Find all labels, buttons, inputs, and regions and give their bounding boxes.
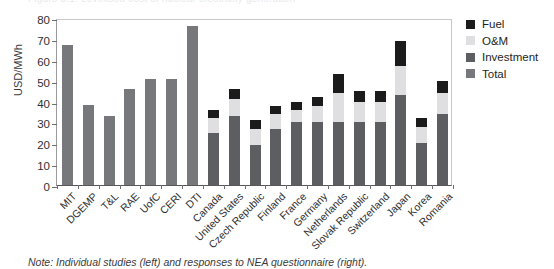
y-axis-label: USD/MWh <box>12 15 24 125</box>
bar-segment-om <box>395 66 406 95</box>
y-axis-tick <box>52 124 57 125</box>
bar-segment-om <box>250 129 261 146</box>
x-axis-tick <box>286 185 287 189</box>
bar-segment-fuel <box>208 110 219 118</box>
legend-swatch-fuel <box>466 20 475 29</box>
bar-segment-om <box>354 102 365 123</box>
bar-segment-fuel <box>270 106 281 114</box>
x-axis-tick <box>120 185 121 189</box>
bar-segment-om <box>437 93 448 114</box>
bar-segment-investment <box>250 145 261 185</box>
x-axis-tick-label: UofC <box>137 190 162 215</box>
y-axis-tick-label: 70 <box>37 35 50 47</box>
bar <box>416 118 427 185</box>
y-axis-tick <box>52 166 57 167</box>
bar <box>312 97 323 185</box>
bar-segment-fuel <box>312 97 323 105</box>
bar-segment-om <box>291 110 302 123</box>
bar-segment-investment <box>395 95 406 185</box>
bar <box>354 91 365 185</box>
x-axis-tick <box>307 185 308 189</box>
bar <box>437 81 448 185</box>
x-axis-tick-label: CERI <box>157 190 183 216</box>
y-axis-tick <box>52 41 57 42</box>
bar-segment-fuel <box>229 89 240 99</box>
bar-segment-total <box>62 45 73 185</box>
bar <box>250 120 261 185</box>
bar <box>291 102 302 185</box>
bar-segment-total <box>124 89 135 185</box>
y-axis-tick <box>52 145 57 146</box>
bar-segment-om <box>312 106 323 123</box>
x-axis-tick <box>57 185 58 189</box>
legend-swatch-investment <box>466 53 475 62</box>
y-axis-tick-label: 60 <box>37 56 50 68</box>
y-axis-tick-label: 40 <box>37 98 50 110</box>
x-axis-tick <box>432 185 433 189</box>
x-axis-tick <box>411 185 412 189</box>
figure-title-remnant: Figure 3.1: Levelised cost of nuclear el… <box>0 0 554 10</box>
bar <box>166 79 177 185</box>
bar-segment-fuel <box>375 91 386 101</box>
bar-segment-investment <box>354 122 365 185</box>
y-axis-tick-label: 10 <box>37 160 50 172</box>
x-axis-tick <box>390 185 391 189</box>
legend-label: Total <box>482 68 506 80</box>
bar-segment-om <box>416 127 427 144</box>
x-axis-tick <box>453 185 454 189</box>
x-axis-labels: MITDGEMPT&LRAEUofCCERIDTICanadaUnited St… <box>56 190 516 252</box>
x-axis-tick-label: RAE <box>118 190 142 214</box>
bar-segment-investment <box>208 133 219 185</box>
bar-segment-fuel <box>437 81 448 94</box>
bar <box>83 105 94 185</box>
x-axis-tick <box>140 185 141 189</box>
bar-segment-total <box>104 116 115 185</box>
bar-segment-investment <box>312 122 323 185</box>
bar-segment-investment <box>437 114 448 185</box>
legend-item: Investment <box>466 49 538 66</box>
bar-segment-fuel <box>416 118 427 126</box>
bar-segment-total <box>166 79 177 185</box>
bar-segment-fuel <box>354 91 365 101</box>
bar <box>375 91 386 185</box>
y-axis-tick-label: 30 <box>37 118 50 130</box>
x-axis-tick <box>161 185 162 189</box>
bar <box>145 79 156 185</box>
chart-legend: FuelO&MInvestmentTotal <box>466 16 538 82</box>
x-axis-tick <box>182 185 183 189</box>
bar <box>208 110 219 185</box>
bar-group <box>57 20 451 185</box>
legend-label: Investment <box>482 51 538 63</box>
bar <box>62 45 73 185</box>
legend-swatch-total <box>466 69 475 78</box>
x-axis-tick <box>265 185 266 189</box>
bar-segment-total <box>145 79 156 185</box>
bar-segment-fuel <box>250 120 261 128</box>
bar <box>270 106 281 185</box>
bar-segment-om <box>333 93 344 122</box>
legend-label: O&M <box>482 35 508 47</box>
bar-segment-investment <box>229 116 240 185</box>
legend-item: Total <box>466 66 538 83</box>
bar-segment-investment <box>416 143 427 185</box>
bar-segment-om <box>375 102 386 123</box>
x-axis-tick <box>328 185 329 189</box>
bar-segment-om <box>270 114 281 129</box>
bar <box>333 74 344 185</box>
bar-segment-investment <box>270 129 281 185</box>
bar-segment-fuel <box>395 41 406 66</box>
y-axis-tick <box>52 83 57 84</box>
bar <box>395 41 406 185</box>
figure-container: Figure 3.1: Levelised cost of nuclear el… <box>0 0 554 269</box>
bar-segment-investment <box>375 122 386 185</box>
figure-note: Note: Individual studies (left) and resp… <box>28 256 367 268</box>
legend-item: Fuel <box>466 16 538 33</box>
y-axis-tick-label: 0 <box>44 181 50 193</box>
bar-segment-fuel <box>333 74 344 93</box>
bar <box>187 26 198 185</box>
plot-area: 01020304050607080 <box>56 19 452 186</box>
y-axis-tick-label: 80 <box>37 14 50 26</box>
x-axis-tick <box>370 185 371 189</box>
bar-segment-investment <box>291 122 302 185</box>
legend-item: O&M <box>466 33 538 50</box>
